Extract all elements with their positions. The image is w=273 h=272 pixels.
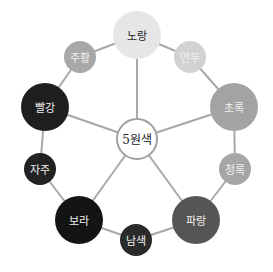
node-label: 노랑	[127, 30, 147, 43]
node-label: 파랑	[186, 215, 206, 228]
color-node-red: 빨강	[21, 83, 69, 131]
center-node: 5원색	[117, 119, 157, 159]
color-node-blue-green: 청록	[219, 153, 251, 185]
center-label: 5원색	[122, 133, 152, 147]
color-wheel-diagram: 노랑연두초록청록파랑남색보라자주빨강주황 5원색	[0, 0, 273, 272]
color-node-yellow-green: 연두	[174, 41, 206, 73]
node-label: 자주	[30, 164, 50, 177]
node-label: 초록	[224, 102, 244, 115]
color-node-blue: 파랑	[172, 196, 220, 244]
node-label: 주황	[70, 52, 90, 65]
color-node-orange: 주황	[64, 41, 96, 73]
color-node-yellow: 노랑	[113, 11, 161, 59]
node-label: 연두	[180, 52, 200, 65]
color-node-purple: 보라	[55, 196, 103, 244]
color-node-navy: 남색	[120, 224, 152, 256]
node-label: 청록	[225, 164, 245, 177]
node-label: 남색	[126, 235, 146, 248]
color-node-green: 초록	[210, 83, 258, 131]
node-label: 빨강	[35, 102, 55, 115]
node-label: 보라	[69, 215, 89, 228]
color-node-magenta: 자주	[24, 153, 56, 185]
diagram-canvas: 노랑연두초록청록파랑남색보라자주빨강주황 5원색	[0, 0, 273, 272]
